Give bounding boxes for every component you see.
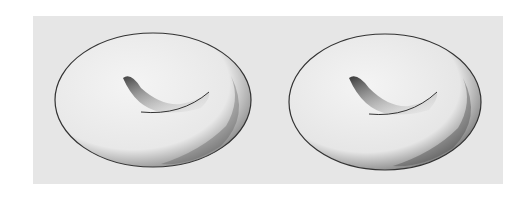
torus-right xyxy=(285,16,495,184)
torus-left xyxy=(51,16,261,184)
figure-panel xyxy=(33,16,503,184)
